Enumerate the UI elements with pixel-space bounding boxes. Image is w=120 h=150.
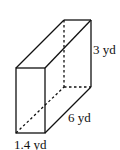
prism-diagram — [0, 0, 120, 150]
front-face — [16, 68, 45, 133]
hidden-bottom-left-edge — [16, 87, 64, 133]
height-label: 3 yd — [93, 43, 116, 56]
top-left-edge — [16, 20, 64, 68]
width-label: 1.4 yd — [14, 138, 47, 150]
top-right-edge — [45, 20, 91, 68]
length-label: 6 yd — [68, 111, 91, 124]
